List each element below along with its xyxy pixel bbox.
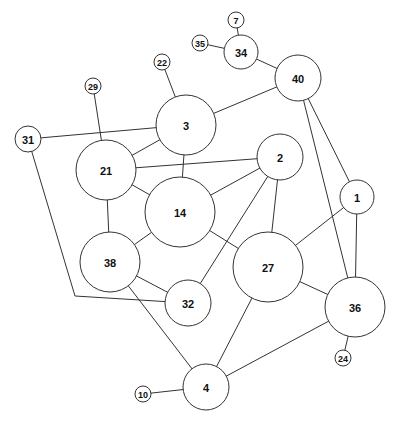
- node-label: 3: [183, 120, 189, 132]
- node-label: 38: [104, 257, 116, 269]
- node-38[interactable]: 38: [80, 232, 140, 292]
- node-label: 4: [203, 382, 210, 394]
- node-label: 14: [174, 207, 187, 219]
- node-36[interactable]: 36: [325, 277, 385, 337]
- node-21[interactable]: 21: [76, 140, 136, 200]
- node-7[interactable]: 7: [228, 12, 244, 28]
- node-29[interactable]: 29: [85, 78, 101, 94]
- node-label: 21: [100, 165, 112, 177]
- node-2[interactable]: 2: [257, 134, 303, 180]
- node-label: 1: [354, 192, 360, 204]
- node-40[interactable]: 40: [275, 55, 321, 101]
- node-10[interactable]: 10: [135, 386, 151, 402]
- node-34[interactable]: 34: [224, 35, 258, 69]
- node-label: 40: [292, 73, 304, 85]
- node-4[interactable]: 4: [183, 364, 229, 410]
- node-14[interactable]: 14: [145, 177, 215, 247]
- node-27[interactable]: 27: [233, 232, 303, 302]
- node-label: 32: [182, 298, 194, 310]
- node-label: 27: [262, 262, 274, 274]
- node-label: 10: [138, 390, 148, 400]
- node-3[interactable]: 3: [156, 95, 216, 155]
- node-label: 7: [233, 16, 238, 26]
- graph-canvas: 735344022293132121413827323624410: [0, 0, 396, 421]
- node-label: 29: [88, 82, 98, 92]
- node-label: 31: [22, 134, 34, 146]
- node-label: 22: [157, 58, 167, 68]
- node-label: 35: [195, 39, 205, 49]
- nodes-layer: 735344022293132121413827323624410: [15, 12, 385, 410]
- node-1[interactable]: 1: [340, 180, 374, 214]
- node-label: 34: [235, 47, 248, 59]
- node-label: 2: [277, 152, 283, 164]
- node-label: 24: [338, 354, 348, 364]
- node-31[interactable]: 31: [15, 126, 41, 152]
- node-label: 36: [349, 302, 361, 314]
- node-35[interactable]: 35: [192, 35, 208, 51]
- node-24[interactable]: 24: [335, 350, 351, 366]
- node-32[interactable]: 32: [165, 280, 211, 326]
- node-22[interactable]: 22: [154, 54, 170, 70]
